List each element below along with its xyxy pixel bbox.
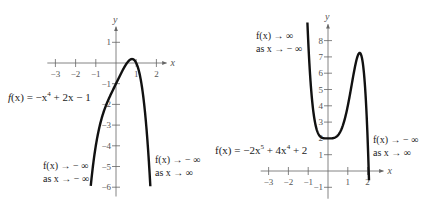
eq-tail: + 2x − 1 — [51, 91, 91, 103]
x-tick-label: 2 — [154, 69, 159, 79]
y-tick-label: −5 — [101, 162, 111, 172]
x-axis-label: x — [386, 165, 392, 176]
annotation-line2: as x → − ∞ — [256, 42, 302, 55]
annotation-line1: f(x) → − ∞ — [43, 159, 89, 172]
annotation-line1: f(x) → ∞ — [256, 29, 302, 42]
y-axis-label: y — [112, 14, 118, 25]
annotation-line2: as x → ∞ — [155, 166, 200, 179]
y-tick-label: −1 — [313, 182, 323, 192]
eq-x: (x) — [11, 91, 24, 103]
x-tick-label: −2 — [284, 177, 294, 187]
annotation-line1: f(x) → − ∞ — [155, 153, 200, 166]
y-tick-label: −6 — [101, 182, 111, 192]
y-tick-label: −4 — [101, 141, 111, 151]
function-curve — [307, 22, 369, 180]
right-equation-label: f(x) = −2x5 + 4x4 + 2 — [215, 141, 307, 157]
y-tick-label: 8 — [319, 36, 324, 46]
x-tick-label: −3 — [264, 177, 274, 187]
x-tick-label: 1 — [346, 177, 351, 187]
annotation-line1: f(x) → − ∞ — [373, 133, 418, 146]
eq-rhs: = −x — [24, 91, 47, 103]
y-tick-label: −1 — [101, 79, 111, 89]
right-annotation-right: f(x) → − ∞ as x → ∞ — [373, 133, 418, 159]
y-axis-label: y — [324, 11, 330, 22]
left-annotation-bottom-right: f(x) → − ∞ as x → ∞ — [155, 153, 200, 179]
left-annotation-bottom-left: f(x) → − ∞ as x → − ∞ — [43, 159, 89, 185]
annotation-line2: as x → − ∞ — [43, 172, 89, 185]
x-tick-label: −1 — [91, 69, 101, 79]
x-axis-label: x — [170, 57, 176, 68]
y-tick-label: −3 — [101, 120, 111, 130]
y-tick-label: 4 — [319, 101, 324, 111]
y-tick-label: 1 — [107, 37, 112, 47]
x-tick-label: −3 — [51, 69, 61, 79]
eq-part-c: + 2 — [290, 144, 307, 156]
x-tick-label: −2 — [71, 69, 81, 79]
right-annotation-top-left: f(x) → ∞ as x → − ∞ — [256, 29, 302, 55]
y-tick-label: 6 — [319, 68, 324, 78]
y-tick-label: 7 — [319, 52, 324, 62]
eq-part-a: f(x) = −2x — [215, 144, 260, 156]
left-equation-label: f(x) = −x4 + 2x − 1 — [8, 88, 91, 104]
y-tick-label: 3 — [319, 117, 324, 127]
eq-part-b: + 4x — [264, 144, 287, 156]
y-tick-label: 1 — [319, 150, 324, 160]
x-tick-label: −1 — [303, 177, 313, 187]
annotation-line2: as x → ∞ — [373, 146, 418, 159]
y-tick-label: 5 — [319, 85, 324, 95]
